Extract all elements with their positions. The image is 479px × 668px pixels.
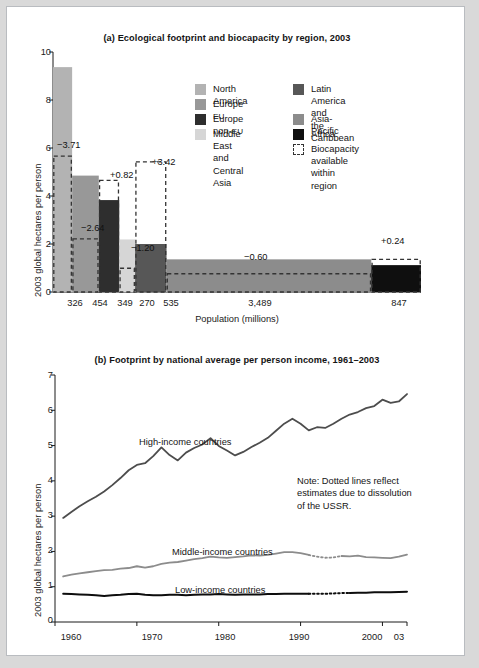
panel-b-xtick-1980: 1980 bbox=[210, 632, 240, 642]
panel-b-xtick-2000: 2000 bbox=[357, 632, 387, 642]
panel-b-xtick-03: 03 bbox=[388, 632, 410, 642]
panel-b-series-label-high-income: High-income countries bbox=[139, 437, 232, 447]
figure-page: (a) Ecological footprint and biocapacity… bbox=[6, 6, 465, 656]
panel-b-note: Note: Dotted lines reflect estimates due… bbox=[297, 475, 447, 512]
panel-b-series-label-middle-income: Middle-income countries bbox=[172, 547, 273, 557]
panel-b-series-label-low-income: Low-income countries bbox=[175, 585, 265, 595]
panel-b-xtick-1990: 1990 bbox=[284, 632, 314, 642]
panel-b-xtick-1970: 1970 bbox=[137, 632, 167, 642]
panel-b-xtick-1960: 1960 bbox=[56, 632, 86, 642]
panel-b-plot bbox=[7, 7, 465, 656]
